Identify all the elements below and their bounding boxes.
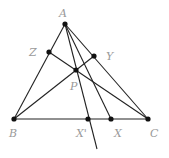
triangle-cevian-diagram: ABCZYPX'X [0,0,169,158]
segment-a-b [14,24,65,119]
point-c [145,116,150,121]
point-y [91,53,96,58]
label-a: A [58,7,67,20]
point-a [62,21,67,26]
point-p [73,67,78,72]
label-z: Z [28,46,37,59]
label-x-prime: X' [75,127,87,140]
label-x: X [113,127,123,140]
point-x [108,116,113,121]
label-p: P [69,80,78,93]
label-layer: ABCZYPX'X [8,7,159,140]
point-x-prime [85,116,90,121]
label-b: B [8,127,17,140]
label-c: C [150,127,159,140]
label-y: Y [106,50,115,63]
point-b [11,116,16,121]
point-z [46,49,51,54]
segment-a-x [65,24,111,119]
segment-b-y [14,56,94,119]
